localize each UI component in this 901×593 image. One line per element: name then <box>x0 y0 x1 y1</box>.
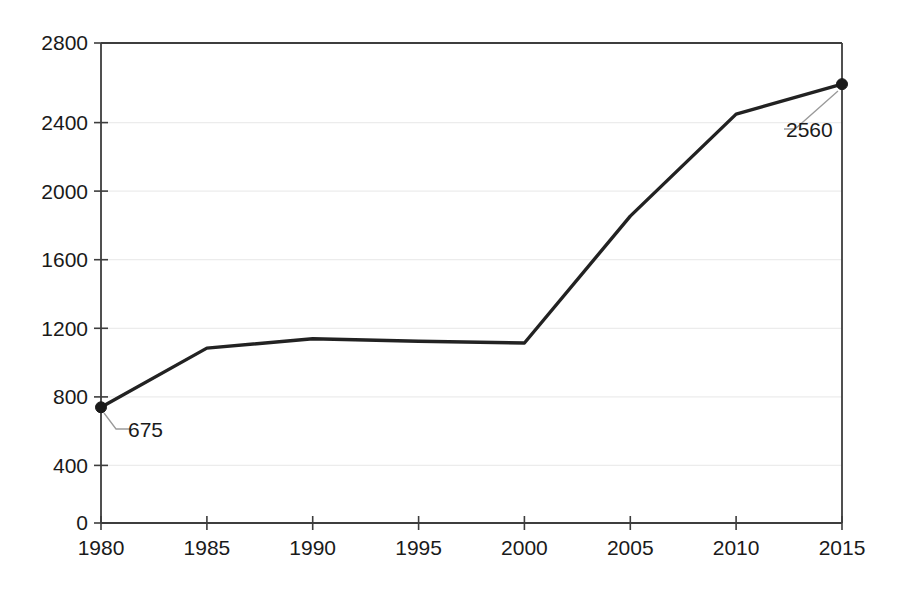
x-tick-label-1995: 1995 <box>395 536 442 559</box>
x-tick-label-2005: 2005 <box>607 536 654 559</box>
y-tick-label-1600: 1600 <box>41 248 88 271</box>
x-axis-labels: 1980 1985 1990 1995 2000 2005 2010 2015 <box>78 536 866 559</box>
x-tick-label-2015: 2015 <box>819 536 866 559</box>
x-tick-label-2010: 2010 <box>713 536 760 559</box>
y-tick-label-2000: 2000 <box>41 180 88 203</box>
y-tick-label-400: 400 <box>53 454 88 477</box>
y-tick-label-800: 800 <box>53 385 88 408</box>
data-point-1980 <box>96 402 107 413</box>
x-tick-label-1985: 1985 <box>184 536 231 559</box>
x-tick-label-1990: 1990 <box>289 536 336 559</box>
y-tick-label-2400: 2400 <box>41 111 88 134</box>
y-axis-labels: 2800 2400 2000 1600 1200 800 400 0 <box>41 31 88 534</box>
annotation-first-point: 675 <box>128 418 163 441</box>
x-tick-label-1980: 1980 <box>78 536 125 559</box>
data-point-2015 <box>837 79 848 90</box>
line-chart: 2800 2400 2000 1600 1200 800 400 0 1980 … <box>0 0 901 593</box>
plot-background <box>101 43 842 523</box>
y-tick-label-2800: 2800 <box>41 31 88 54</box>
y-tick-label-1200: 1200 <box>41 317 88 340</box>
annotation-last-point: 2560 <box>786 118 833 141</box>
y-tick-label-0: 0 <box>76 511 88 534</box>
x-tick-label-2000: 2000 <box>501 536 548 559</box>
chart-canvas: 2800 2400 2000 1600 1200 800 400 0 1980 … <box>0 0 901 593</box>
